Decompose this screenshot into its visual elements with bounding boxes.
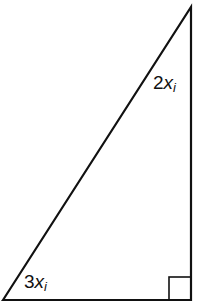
angle-coef: 3 (24, 271, 35, 292)
angle-subscript: i (44, 279, 47, 294)
triangle (3, 7, 191, 300)
angle-subscript: i (173, 80, 176, 95)
angle-var: x (164, 72, 174, 93)
angle-coef: 2 (153, 72, 164, 93)
angle-label-top: 2xi (153, 72, 176, 95)
angle-label-bottom-left: 3xi (24, 271, 47, 294)
angle-var: x (35, 271, 45, 292)
right-angle-marker (169, 277, 191, 300)
triangle-figure (0, 0, 201, 306)
